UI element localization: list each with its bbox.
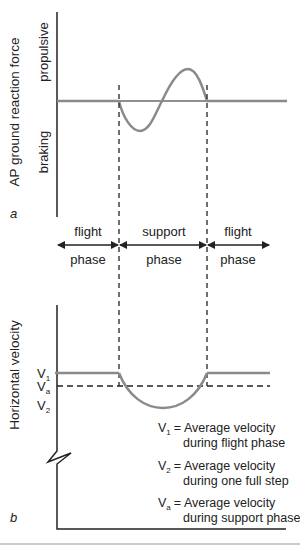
braking-label: braking	[36, 131, 51, 174]
phase-3-bottom: phase	[220, 252, 255, 267]
ap-force-curve	[119, 69, 207, 131]
legend-v1-line1: V1= Average velocity	[158, 421, 276, 437]
phase-2-top: support	[142, 224, 186, 239]
phase-2-bottom: phase	[146, 252, 181, 267]
legend-va-line1: Va= Average velocity	[158, 496, 276, 512]
velocity-curve	[119, 373, 207, 408]
diagram-canvas: propulsive braking AP ground reaction fo…	[0, 0, 300, 545]
panel-b-label: b	[10, 510, 17, 525]
phase-1-bottom: phase	[70, 252, 105, 267]
panel-a: propulsive braking AP ground reaction fo…	[7, 12, 287, 221]
propulsive-label: propulsive	[36, 22, 51, 81]
legend-v2-line1: V2= Average velocity	[158, 459, 276, 475]
tick-v2: V2	[37, 398, 51, 415]
panel-a-y-axis-label: AP ground reaction force	[7, 37, 22, 186]
legend-v2-line2: during one full step	[183, 474, 289, 488]
legend-va-line2: during support phase	[183, 511, 300, 525]
legend-v1-line2: during flight phase	[183, 436, 285, 450]
panel-b: V1 Va V2 Horizontal velocity b V1= Avera…	[7, 305, 300, 529]
phase-1-top: flight	[74, 224, 102, 239]
legend: V1= Average velocity during flight phase…	[158, 421, 300, 525]
phase-3-top: flight	[224, 224, 252, 239]
panel-a-label: a	[10, 206, 17, 221]
phase-arrows: flight phase support phase flight phase	[58, 224, 269, 267]
panel-b-y-axis-label: Horizontal velocity	[7, 320, 22, 430]
